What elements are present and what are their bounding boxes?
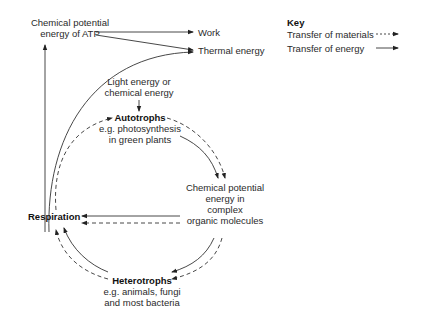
heterotrophs-title: Heterotrophs (96, 275, 188, 286)
heterotrophs-line1: e.g. animals, fungi (96, 286, 188, 297)
edge-organic-heterotrophs-materials (172, 238, 222, 279)
organic-line2: energy in (180, 193, 270, 204)
edge-organic-heterotrophs-energy (172, 238, 214, 272)
atp-line2: energy of ATP (22, 28, 118, 39)
autotrophs-line2: in green plants (92, 134, 188, 145)
key-title: Key (287, 17, 304, 28)
atp-line1: Chemical potential (22, 17, 118, 28)
key-energy-label: Transfer of energy (287, 43, 364, 54)
organic-line3: complex (180, 204, 270, 215)
light-line1: Light energy or (95, 76, 183, 87)
node-work: Work (198, 27, 220, 38)
autotrophs-title: Autotrophs (92, 112, 188, 123)
node-atp: Chemical potential energy of ATP (22, 17, 118, 39)
node-thermal: Thermal energy (198, 45, 265, 56)
light-line2: chemical energy (95, 87, 183, 98)
organic-line1: Chemical potential (180, 182, 270, 193)
node-respiration: Respiration (28, 211, 80, 222)
heterotrophs-line2: and most bacteria (96, 297, 188, 308)
edge-heterotrophs-respiration-energy (64, 228, 108, 272)
organic-line4: organic molecules (180, 215, 270, 226)
node-heterotrophs: Heterotrophs e.g. animals, fungi and mos… (96, 275, 188, 308)
edge-heterotrophs-respiration-materials (56, 230, 108, 279)
node-light: Light energy or chemical energy (95, 76, 183, 98)
node-organic: Chemical potential energy in complex org… (180, 182, 270, 226)
key-materials-label: Transfer of materials (287, 29, 374, 40)
node-autotrophs: Autotrophs e.g. photosynthesis in green … (92, 112, 188, 145)
autotrophs-line1: e.g. photosynthesis (92, 123, 188, 134)
